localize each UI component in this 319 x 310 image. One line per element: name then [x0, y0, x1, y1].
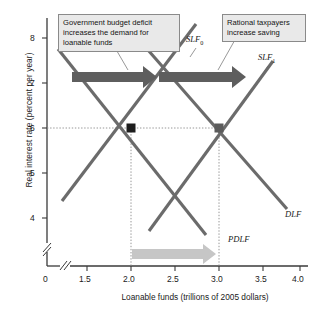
x-tick-label-3-0: 3.0 — [211, 274, 223, 284]
curve-slf1 — [149, 61, 273, 231]
curve-label-slf1-sub: 1 — [272, 57, 275, 64]
saving-callout-leader — [218, 38, 236, 70]
x-tick-marks — [87, 266, 300, 271]
origin-label: 0 — [43, 274, 48, 284]
y-tick-label-5: 5 — [30, 168, 35, 178]
y-tick-label-6: 6 — [30, 123, 35, 133]
curve-label-slf1-text: SLF — [258, 52, 272, 62]
shift-arrows — [72, 66, 246, 88]
equilibrium-marker-1 — [215, 124, 224, 133]
loanable-funds-market-chart: Real interest rate (percent per year) Lo… — [0, 0, 319, 310]
curve-label-pdlf: PDLF — [228, 234, 249, 244]
slf0-label-leader — [190, 48, 196, 57]
x-tick-label-4-0: 4.0 — [292, 274, 304, 284]
x-tick-label-2-0: 2.0 — [123, 274, 135, 284]
x-axis-break-icon — [60, 261, 71, 270]
y-tick-label-7: 7 — [30, 78, 35, 88]
x-axis-title: Loanable funds (trillions of 2005 dollar… — [80, 292, 310, 302]
saving-callout-box: Rational taxpayers increase saving — [222, 14, 306, 42]
y-axis-title: Real interest rate (percent per year) — [24, 30, 34, 210]
y-tick-label-8: 8 — [30, 33, 35, 43]
x-tick-label-3-5: 3.5 — [255, 274, 267, 284]
curves — [58, 24, 287, 235]
y-tick-marks — [42, 38, 47, 218]
curve-label-slf0-sub: 0 — [200, 39, 203, 46]
curve-dlf — [141, 42, 287, 209]
quantity-increase-arrow — [132, 244, 216, 264]
y-tick-label-4: 4 — [30, 213, 35, 223]
equilibrium-guide-lines — [47, 128, 219, 266]
x-tick-label-2-5: 2.5 — [167, 274, 179, 284]
supply-shift-arrow — [159, 66, 246, 88]
curve-label-slf1: SLF1 — [258, 52, 275, 64]
curve-label-slf0: SLF0 — [186, 34, 203, 46]
curve-label-slf0-text: SLF — [186, 34, 200, 44]
deficit-callout-box: Government budget deficit increases the … — [58, 14, 180, 52]
equilibrium-marker-0 — [127, 124, 136, 133]
curve-label-dlf: DLF — [285, 209, 301, 219]
x-tick-label-1-5: 1.5 — [79, 274, 91, 284]
